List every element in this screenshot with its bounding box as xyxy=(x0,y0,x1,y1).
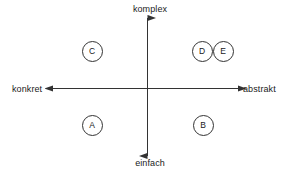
quadrant-diagram: komplex einfach konkret abstrakt A B C D… xyxy=(0,0,300,178)
node-circle-b[interactable]: B xyxy=(193,115,214,136)
axis-label-komplex: komplex xyxy=(0,4,300,14)
axis-label-konkret: konkret xyxy=(12,84,42,94)
node-label: A xyxy=(89,121,95,130)
node-circle-d[interactable]: D xyxy=(192,41,213,62)
node-circle-a[interactable]: A xyxy=(82,115,103,136)
node-label: E xyxy=(220,47,226,56)
node-circle-c[interactable]: C xyxy=(82,41,103,62)
axis-label-einfach: einfach xyxy=(0,158,300,168)
node-label: B xyxy=(200,121,206,130)
axis-label-abstrakt: abstrakt xyxy=(243,84,276,94)
node-label: C xyxy=(89,47,95,56)
node-circle-e[interactable]: E xyxy=(213,41,234,62)
node-label: D xyxy=(199,47,205,56)
